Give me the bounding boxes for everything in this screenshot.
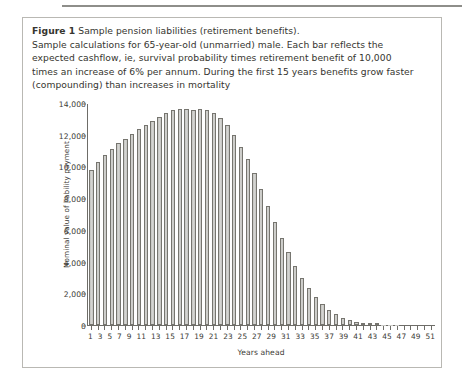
x-tick-label: 35: [310, 332, 320, 344]
bar: [184, 109, 188, 325]
top-divider-rule: [62, 5, 462, 7]
x-tick-slot: [163, 326, 170, 331]
x-tick-mark: [397, 326, 398, 330]
bar-slot: [217, 104, 224, 325]
x-tick-mark: [220, 326, 221, 330]
x-tick-label: 17: [180, 332, 190, 344]
bar: [348, 320, 352, 325]
y-tick-label: 12,000: [42, 131, 86, 140]
x-tick-slot: [407, 326, 414, 331]
x-tick-slot: [428, 326, 435, 331]
bar: [286, 252, 290, 325]
bar: [307, 288, 311, 325]
bar: [368, 323, 372, 325]
figure-label: Figure 1: [32, 25, 75, 36]
bar-slot: [95, 104, 102, 325]
x-tick-slot: [102, 326, 109, 331]
x-tick-label: 23: [223, 332, 233, 344]
x-tick-label: 29: [267, 332, 277, 344]
bar: [157, 117, 161, 325]
x-tick-slot: [265, 326, 272, 331]
bar-slot: [190, 104, 197, 325]
figure-container: Figure 1 Sample pension liabilities (ret…: [0, 0, 468, 379]
y-tick-label: 14,000: [42, 100, 86, 109]
bar-slot: [244, 104, 251, 325]
bar-slot: [149, 104, 156, 325]
bar: [103, 155, 107, 325]
bar-slot: [339, 104, 346, 325]
x-tick-mark: [118, 326, 119, 330]
bar: [327, 310, 331, 325]
bar-slot: [333, 104, 340, 325]
bar: [150, 121, 154, 325]
bar-slot: [285, 104, 292, 325]
x-tick-slot: [421, 326, 428, 331]
bar: [375, 323, 379, 325]
bar-slot: [360, 104, 367, 325]
x-tick-slot: [367, 326, 374, 331]
x-tick-mark: [410, 326, 411, 330]
bar-slot: [115, 104, 122, 325]
y-tick-mark: [82, 262, 86, 263]
x-tick-label: 15: [165, 332, 175, 344]
x-tick-label: 43: [368, 332, 378, 344]
x-tick-slot: [258, 326, 265, 331]
x-tick-slot: [373, 326, 380, 331]
y-tick-mark: [82, 326, 86, 327]
x-tick-label: 25: [238, 332, 248, 344]
bar: [361, 323, 365, 325]
x-tick-mark: [424, 326, 425, 330]
x-tick-mark: [431, 326, 432, 330]
x-tick-mark: [200, 326, 201, 330]
bar-slot: [163, 104, 170, 325]
x-tick-slot: [285, 326, 292, 331]
x-tick-slot: [231, 326, 238, 331]
x-tick-slot: [156, 326, 163, 331]
bar-slot: [299, 104, 306, 325]
x-tick-mark: [370, 326, 371, 330]
bar-slot: [204, 104, 211, 325]
y-tick-mark: [82, 199, 86, 200]
x-tick-mark: [193, 326, 194, 330]
x-tick-mark: [159, 326, 160, 330]
y-tick-label: 10,000: [42, 163, 86, 172]
x-tick-slot: [306, 326, 313, 331]
caption-line-3: times an increase of 6% per annum. Durin…: [32, 65, 432, 79]
x-tick-slot: [197, 326, 204, 331]
bar: [110, 149, 114, 325]
bar: [205, 110, 209, 325]
bar-slot: [136, 104, 143, 325]
x-tick-mark: [138, 326, 139, 330]
x-tick-mark: [288, 326, 289, 330]
x-tick-slot: [401, 326, 408, 331]
bar-slot: [88, 104, 95, 325]
x-tick-label: 41: [353, 332, 363, 344]
bar-slot: [265, 104, 272, 325]
bar-slot: [380, 104, 387, 325]
x-tick-slot: [204, 326, 211, 331]
bar-slot: [176, 104, 183, 325]
bar: [218, 118, 222, 325]
x-tick-mark: [308, 326, 309, 330]
x-tick-slot: [115, 326, 122, 331]
x-tick-slot: [353, 326, 360, 331]
x-tick-slot: [88, 326, 95, 331]
x-tick-slot: [414, 326, 421, 331]
x-tick-mark: [227, 326, 228, 330]
x-tick-mark: [417, 326, 418, 330]
x-tick-label: 21: [209, 332, 219, 344]
x-tick-slot: [346, 326, 353, 331]
x-tick-mark: [261, 326, 262, 330]
bar-slot: [224, 104, 231, 325]
bar: [130, 134, 134, 325]
bar: [300, 278, 304, 325]
x-tick-label: 19: [194, 332, 204, 344]
x-tick-mark: [152, 326, 153, 330]
x-tick-mark: [322, 326, 323, 330]
bar-slot: [156, 104, 163, 325]
x-tick-slot: [190, 326, 197, 331]
y-axis-ticks: 02,0004,0006,0008,00010,00012,00014,000: [32, 104, 86, 326]
x-tick-slot: [136, 326, 143, 331]
bar-slot: [122, 104, 129, 325]
x-tick-mark: [356, 326, 357, 330]
